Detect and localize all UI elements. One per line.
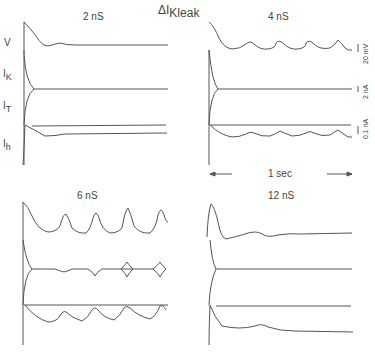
trace-ih: [25, 305, 166, 322]
trace-ih: [210, 125, 352, 137]
panel-4ns: [209, 22, 352, 165]
trace-it: [209, 269, 216, 305]
trace-it: [24, 89, 34, 125]
trace-ik: [24, 55, 168, 89]
time-scale-arrows: [210, 172, 352, 176]
trace-ih-ref: [32, 125, 166, 126]
trace-v: [209, 22, 352, 50]
trace-ih: [25, 125, 167, 136]
trace-ih: [210, 305, 353, 332]
trace-it: [209, 89, 218, 125]
trace-v: [207, 204, 352, 239]
panel-2ns: [23, 22, 168, 165]
trace-ik: [209, 50, 352, 89]
trace-bottom: [209, 305, 210, 345]
trace-it: [23, 269, 32, 305]
trace-ik: [23, 240, 166, 277]
trace-v: [24, 22, 168, 54]
panel-6ns: [23, 202, 168, 345]
traces-canvas: [0, 0, 375, 353]
trace-ik: [210, 240, 352, 269]
panel-12ns: [207, 204, 353, 345]
trace-v: [23, 202, 168, 235]
